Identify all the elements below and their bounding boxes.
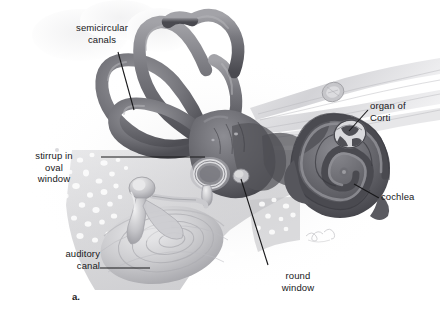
- label-stirrup-in-oval-window: stirrup in oval window: [8, 150, 100, 185]
- label-auditory-canal: auditory canal: [12, 248, 100, 271]
- label-round-window: round window: [265, 270, 331, 293]
- label-cochlea: cochlea: [381, 191, 437, 203]
- label-organ-of-corti: organ of Corti: [370, 100, 436, 123]
- inner-ear-figure: semicircular canals stirrup in oval wind…: [0, 0, 440, 322]
- figure-letter: a.: [72, 291, 80, 302]
- round-window: [233, 169, 249, 183]
- label-semicircular-canals: semicircular canals: [46, 22, 158, 45]
